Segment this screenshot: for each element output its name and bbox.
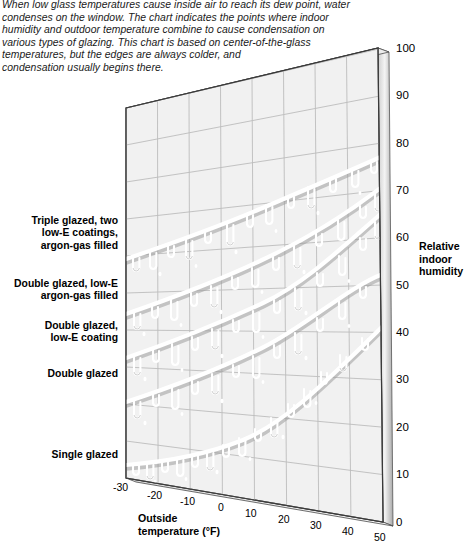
y-tick-40: 40 xyxy=(396,326,409,338)
x-axis-title-line: temperature (°F) xyxy=(138,525,220,538)
y-tick-0: 0 xyxy=(396,516,402,528)
y-axis-title-line: Relative xyxy=(419,240,463,253)
x-tick-10: 10 xyxy=(245,507,257,519)
y-tick-80: 80 xyxy=(396,137,409,149)
y-tick-30: 30 xyxy=(396,373,409,385)
x-tick--30: -30 xyxy=(113,481,128,493)
series-label-single-glazed: Single glazed xyxy=(0,449,118,461)
series-label-double-glazed: Double glazed xyxy=(0,368,118,380)
x-axis-title: Outside temperature (°F) xyxy=(138,512,220,537)
y-axis-title-line: humidity xyxy=(419,265,463,278)
x-tick-40: 40 xyxy=(342,525,354,537)
series-label-line: argon-gas filled xyxy=(0,240,118,252)
x-tick-20: 20 xyxy=(278,513,290,525)
x-tick-50: 50 xyxy=(374,531,386,541)
y-tick-50: 50 xyxy=(396,279,409,291)
x-tick-30: 30 xyxy=(310,519,322,531)
series-label-line: low-E coating xyxy=(0,332,118,344)
y-tick-10: 10 xyxy=(396,468,409,480)
series-label-line: low-E coatings, xyxy=(0,227,118,239)
y-tick-60: 60 xyxy=(396,231,409,243)
y-tick-100: 100 xyxy=(396,42,415,54)
series-label-double-lowe: Double glazed, low-E coating xyxy=(0,320,118,345)
series-label-line: Double glazed xyxy=(0,368,118,380)
x-tick--20: -20 xyxy=(147,489,162,501)
series-label-double-lowe-argon: Double glazed, low-E argon-gas filled xyxy=(0,278,118,303)
series-label-line: Triple glazed, two xyxy=(0,215,118,227)
series-label-line: Double glazed, low-E xyxy=(0,278,118,290)
y-axis-title-line: indoor xyxy=(419,253,463,266)
y-tick-90: 90 xyxy=(396,89,409,101)
y-tick-70: 70 xyxy=(396,184,409,196)
series-label-triple-glazed: Triple glazed, two low-E coatings, argon… xyxy=(0,215,118,252)
x-tick--10: -10 xyxy=(180,495,195,507)
condensation-chart: 100 90 80 70 60 50 40 30 20 10 0 -30 -20… xyxy=(0,0,470,541)
y-tick-20: 20 xyxy=(396,421,409,433)
series-label-line: argon-gas filled xyxy=(0,290,118,302)
series-label-line: Double glazed, xyxy=(0,320,118,332)
y-axis-title: Relative indoor humidity xyxy=(419,240,463,278)
x-axis-title-line: Outside xyxy=(138,512,220,525)
series-label-line: Single glazed xyxy=(0,449,118,461)
